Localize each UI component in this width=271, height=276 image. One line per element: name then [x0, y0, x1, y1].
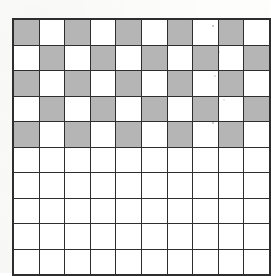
grid-cell-blank	[90, 249, 116, 275]
grid-cell-blank	[141, 224, 167, 250]
grid-cell-blank	[244, 147, 270, 173]
grid-cell-blank	[218, 224, 244, 250]
grid-cell-blank	[193, 173, 219, 199]
grid-cell-shaded	[218, 71, 244, 97]
grid-cell-blank	[141, 19, 167, 45]
grid-cell-blank	[141, 249, 167, 275]
grid-cell-blank	[39, 147, 65, 173]
grid-cell-shaded	[13, 19, 39, 45]
grid-cell-blank	[218, 249, 244, 275]
grid-row	[13, 122, 270, 148]
grid-cell-blank	[244, 173, 270, 199]
grid-cell-blank	[65, 224, 91, 250]
grid-row	[13, 173, 270, 199]
grid-cell-shaded	[65, 19, 91, 45]
grid-cell-blank	[90, 71, 116, 97]
grid-cell-blank	[90, 19, 116, 45]
grid-cell-blank	[13, 173, 39, 199]
grid-wrapper	[12, 18, 258, 263]
grid-cell-blank	[90, 147, 116, 173]
grid-row	[13, 249, 270, 275]
grid-cell-blank	[65, 249, 91, 275]
grid-cell-blank	[65, 96, 91, 122]
grid-cell-blank	[39, 224, 65, 250]
grid-cell-blank	[65, 173, 91, 199]
grid-cell-blank	[167, 147, 193, 173]
grid-cell-blank	[193, 71, 219, 97]
grid-row	[13, 224, 270, 250]
grid-cell-blank	[218, 45, 244, 71]
grid-cell-shaded	[39, 96, 65, 122]
grid-cell-blank	[39, 19, 65, 45]
grid-cell-blank	[65, 147, 91, 173]
grid-cell-blank	[39, 198, 65, 224]
grid-cell-blank	[244, 71, 270, 97]
grid-cell-blank	[13, 198, 39, 224]
grid-cell-blank	[141, 71, 167, 97]
grid-cell-shaded	[65, 71, 91, 97]
grid-cell-shaded	[116, 71, 142, 97]
grid-cell-blank	[65, 45, 91, 71]
grid-cell-blank	[167, 173, 193, 199]
grid-cell-shaded	[218, 122, 244, 148]
grid-cell-blank	[218, 147, 244, 173]
grid-cell-blank	[193, 198, 219, 224]
grid-body	[13, 19, 270, 275]
grid-cell-blank	[39, 173, 65, 199]
grid-cell-shaded	[141, 45, 167, 71]
grid-cell-shaded	[167, 122, 193, 148]
grid-row	[13, 147, 270, 173]
grid-cell-blank	[13, 96, 39, 122]
grid-cell-shaded	[13, 71, 39, 97]
grid-row	[13, 19, 270, 45]
grid-cell-blank	[65, 198, 91, 224]
grid-cell-blank	[193, 19, 219, 45]
grid-cell-blank	[13, 147, 39, 173]
grid-cell-blank	[116, 147, 142, 173]
grid-cell-blank	[167, 198, 193, 224]
grid-cell-blank	[244, 198, 270, 224]
grid-cell-shaded	[65, 122, 91, 148]
grid-cell-blank	[141, 173, 167, 199]
grid-row	[13, 96, 270, 122]
grid-cell-blank	[244, 122, 270, 148]
grid-cell-blank	[193, 147, 219, 173]
grid-cell-blank	[90, 173, 116, 199]
grid-row	[13, 45, 270, 71]
grid-cell-shaded	[244, 96, 270, 122]
grid-cell-shaded	[218, 19, 244, 45]
grid-cell-blank	[13, 45, 39, 71]
grid-cell-shaded	[141, 96, 167, 122]
grid-cell-shaded	[167, 19, 193, 45]
grid-cell-shaded	[39, 45, 65, 71]
grid-cell-blank	[244, 249, 270, 275]
grid-cell-blank	[90, 122, 116, 148]
grid-cell-blank	[141, 122, 167, 148]
grid-cell-blank	[167, 249, 193, 275]
grid-cell-blank	[13, 224, 39, 250]
grid-cell-blank	[141, 198, 167, 224]
grid-cell-shaded	[116, 19, 142, 45]
grid-row	[13, 71, 270, 97]
grid-cell-blank	[90, 198, 116, 224]
grid-cell-blank	[116, 224, 142, 250]
grid-cell-blank	[218, 198, 244, 224]
grid-cell-shaded	[90, 45, 116, 71]
grid-cell-blank	[116, 45, 142, 71]
grid-cell-blank	[116, 96, 142, 122]
grid-cell-blank	[39, 122, 65, 148]
grid-cell-shaded	[244, 45, 270, 71]
grid-cell-blank	[13, 249, 39, 275]
grid-cell-shaded	[167, 71, 193, 97]
grid-cell-blank	[141, 147, 167, 173]
grid-cell-blank	[39, 249, 65, 275]
grid-cell-blank	[90, 224, 116, 250]
shaded-grid-table	[12, 18, 271, 276]
grid-cell-shaded	[13, 122, 39, 148]
grid-cell-blank	[193, 224, 219, 250]
grid-cell-blank	[116, 173, 142, 199]
grid-cell-blank	[116, 198, 142, 224]
grid-cell-blank	[218, 173, 244, 199]
grid-cell-blank	[193, 249, 219, 275]
